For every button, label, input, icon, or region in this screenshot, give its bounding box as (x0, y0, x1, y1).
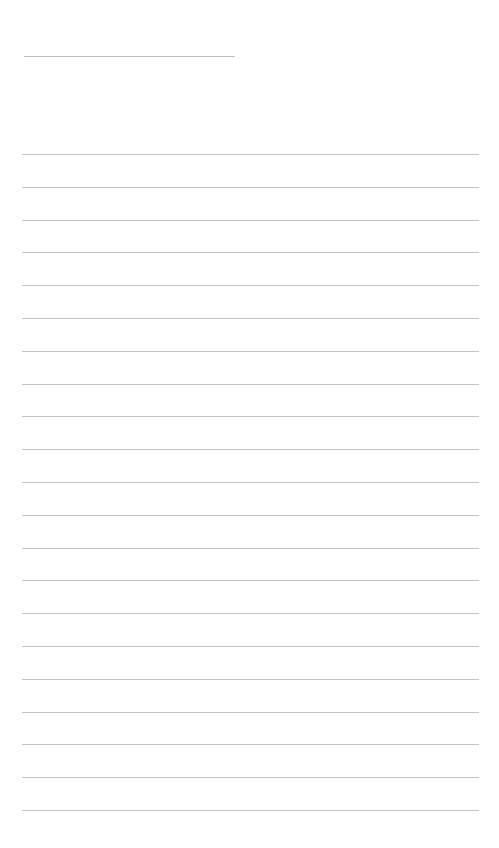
ruled-line (22, 416, 479, 417)
ruled-line (22, 220, 479, 221)
ruled-line (22, 580, 479, 581)
title-line (24, 56, 235, 57)
ruled-line (22, 351, 479, 352)
ruled-line (22, 712, 479, 713)
ruled-line (22, 777, 479, 778)
ruled-line (22, 285, 479, 286)
ruled-line (22, 744, 479, 745)
ruled-line (22, 154, 479, 155)
lined-page (0, 0, 499, 848)
ruled-line (22, 384, 479, 385)
ruled-line (22, 482, 479, 483)
ruled-line (22, 613, 479, 614)
ruled-line (22, 548, 479, 549)
ruled-line (22, 252, 479, 253)
ruled-line (22, 679, 479, 680)
ruled-line (22, 449, 479, 450)
ruled-line (22, 187, 479, 188)
ruled-line (22, 515, 479, 516)
ruled-line (22, 646, 479, 647)
ruled-line (22, 318, 479, 319)
ruled-line (22, 810, 479, 811)
